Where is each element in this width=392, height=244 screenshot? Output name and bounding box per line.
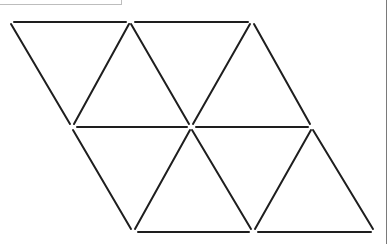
- triangle-edge: [135, 130, 190, 229]
- triangle-edge: [313, 130, 373, 229]
- triangle-edge: [131, 24, 189, 124]
- triangle-edge: [255, 130, 311, 229]
- triangle-edge: [73, 130, 131, 229]
- triangle-net-diagram: [0, 0, 392, 244]
- triangle-edge: [193, 24, 250, 124]
- triangle-edge: [254, 24, 310, 124]
- triangle-edge: [11, 24, 70, 124]
- triangle-edge: [74, 24, 129, 124]
- triangle-edge: [192, 130, 251, 229]
